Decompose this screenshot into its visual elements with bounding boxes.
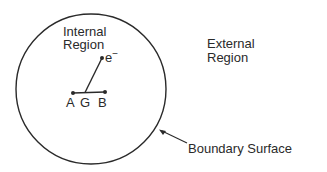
- boundary-surface-label: Boundary Surface: [188, 141, 292, 156]
- electron-label: e−: [105, 48, 118, 65]
- point-g-label: G: [80, 95, 90, 110]
- external-region-label-line2: Region: [207, 50, 248, 65]
- electron-symbol: e: [105, 50, 112, 65]
- arrowhead-icon: [159, 130, 166, 136]
- electron-dot: [100, 56, 104, 60]
- electron-charge: −: [112, 48, 118, 59]
- point-b-label: B: [98, 95, 107, 110]
- ab-bond-line: [73, 92, 105, 93]
- point-a-label: A: [66, 95, 75, 110]
- external-region-label-line1: External: [207, 36, 255, 51]
- internal-region-label-line2: Region: [63, 37, 104, 52]
- diagram-canvas: Internal Region External Region e− A G B…: [0, 0, 327, 172]
- g-to-electron-line: [85, 58, 102, 93]
- boundary-pointer-line: [162, 131, 187, 143]
- point-b-dot: [103, 90, 107, 94]
